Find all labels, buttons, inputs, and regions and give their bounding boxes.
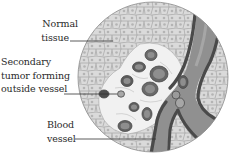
label-line: outside vessel xyxy=(1,82,70,96)
label-line: Blood xyxy=(47,118,76,132)
label-line: tissue xyxy=(38,31,69,45)
normal-tissue-label: Normal tissue xyxy=(38,17,78,44)
secondary-tumor-label: Secondary tumor forming outside vessel xyxy=(1,55,70,96)
label-line: Secondary xyxy=(1,55,70,69)
blood-vessel-label: Blood vessel xyxy=(47,118,76,145)
tissue-circle xyxy=(70,0,230,155)
label-line: Normal xyxy=(38,17,78,31)
label-line: vessel xyxy=(47,132,76,146)
label-line: tumor forming xyxy=(1,69,70,83)
